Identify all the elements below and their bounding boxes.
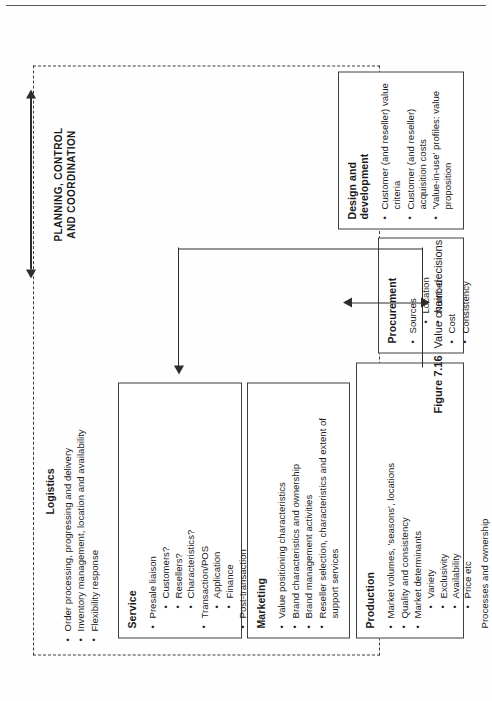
list-item: Reseller selection, characteristics and … xyxy=(317,392,341,628)
list-item: Application xyxy=(211,392,223,608)
list-item: Brand management activities xyxy=(303,392,315,628)
list-item: Finance xyxy=(224,392,236,608)
rotated-figure-canvas: Logistics Order processing, progressing … xyxy=(0,0,492,701)
list-item: Quality and consistency xyxy=(399,372,411,628)
list-item: Cost xyxy=(446,247,458,343)
figure-page: Logistics Order processing, progressing … xyxy=(0,0,492,701)
value-chain-box-design-and-development[interactable]: Design and development Customer (and res… xyxy=(338,71,464,229)
logistics-list: Order processing, progressing and delive… xyxy=(62,341,101,641)
box-title-line1: Design and xyxy=(346,161,358,219)
box-title: Design and development xyxy=(346,81,370,219)
figure-number: Figure 7.16 xyxy=(432,355,444,413)
value-chain-box-production[interactable]: Production Market volumes, 'seasons', lo… xyxy=(356,362,464,638)
marketing-list: Value positioning characteristics Brand … xyxy=(276,392,340,628)
list-item: Market volumes, 'seasons', locations xyxy=(385,372,397,628)
planning-label-line2: AND COORDINATION xyxy=(66,130,77,238)
list-item: Brand characteristics and ownership xyxy=(290,392,302,628)
list-item: Flexibility response xyxy=(89,341,101,641)
list-item: 'Value-in-use' profiles: value propositi… xyxy=(430,81,454,219)
list-item-label: Presale liaison xyxy=(147,556,158,618)
arrow-head-icon xyxy=(26,269,36,278)
service-sublist-transaction: Application Finance xyxy=(211,392,235,618)
list-item: Transaction/POS Application Finance xyxy=(199,392,236,628)
list-item: Presale liaison Customers? Resellers? Ch… xyxy=(147,392,197,628)
flow-arrow-stem xyxy=(178,248,423,249)
value-chain-box-marketing[interactable]: Marketing Value positioning characterist… xyxy=(247,382,350,638)
arrow-head-icon xyxy=(26,89,36,98)
list-item: Availability xyxy=(450,372,462,608)
arrow-head-icon xyxy=(421,297,430,307)
list-item-label: Transaction/POS xyxy=(199,545,210,618)
list-item: Characteristics? xyxy=(185,392,197,608)
service-sublist-presale: Customers? Resellers? Characteristics? xyxy=(160,392,197,618)
box-title: Procurement xyxy=(386,247,398,343)
box-title-line2: development xyxy=(358,153,370,219)
box-title: Service xyxy=(126,392,138,628)
figure-caption-text: Value chain: decisions xyxy=(432,239,444,348)
design-list: Customer (and reseller) value criteria C… xyxy=(379,81,454,219)
list-item: Customer (and reseller) acquisition cost… xyxy=(405,81,429,219)
value-chain-box-procurement[interactable]: Procurement Sources Location Number Cost… xyxy=(378,237,464,353)
logistics-title: Logistics xyxy=(44,341,56,641)
list-item: Price etc xyxy=(462,372,474,608)
logistics-section: Logistics Order processing, progressing … xyxy=(44,341,102,641)
list-item: Value positioning characteristics xyxy=(276,392,288,628)
planning-label: PLANNING, CONTROL AND COORDINATION xyxy=(53,69,78,299)
list-item: Order processing, progressing and delive… xyxy=(62,341,74,641)
box-title: Production xyxy=(364,372,376,628)
production-list: Market volumes, 'seasons', locations Qua… xyxy=(385,372,474,628)
planning-span-arrow xyxy=(30,97,32,269)
production-note: Processes and ownership xyxy=(479,372,491,628)
list-item: Consistency xyxy=(460,247,472,343)
box-title: Marketing xyxy=(255,392,267,628)
list-item: Customers? xyxy=(160,392,172,608)
list-item-label: Market determinants xyxy=(412,531,423,618)
flow-arrow-to-service xyxy=(178,247,179,367)
planning-control-coordination: PLANNING, CONTROL AND COORDINATION xyxy=(46,69,78,299)
planning-label-line1: PLANNING, CONTROL xyxy=(53,127,64,241)
arrow-head-icon xyxy=(343,297,352,307)
list-item: Customer (and reseller) value criteria xyxy=(379,81,403,219)
list-item: Resellers? xyxy=(173,392,185,608)
bidirectional-arrow-procurement-design xyxy=(350,302,424,303)
arrow-head-icon xyxy=(174,365,184,374)
list-item: Inventory management, location and avail… xyxy=(75,341,87,641)
value-chain-box-service[interactable]: Service Presale liaison Customers? Resel… xyxy=(118,382,242,638)
figure-caption: Figure 7.16Value chain: decisions xyxy=(432,239,444,413)
